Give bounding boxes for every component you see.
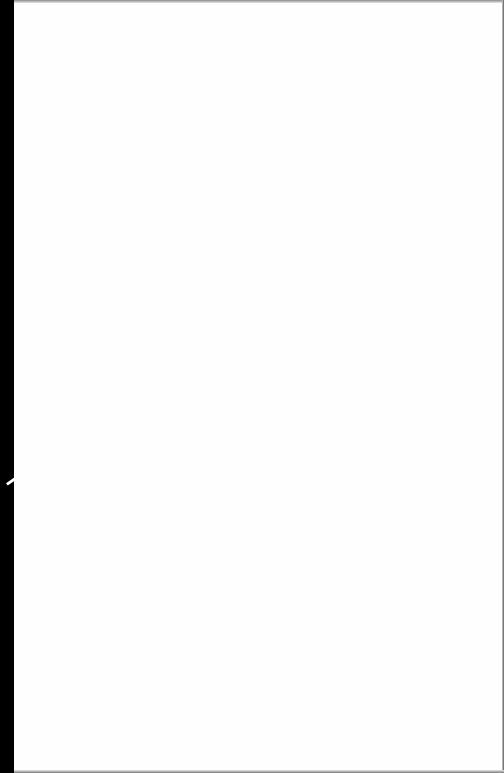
blank-page — [14, 3, 502, 770]
scan-left-margin — [0, 0, 14, 773]
